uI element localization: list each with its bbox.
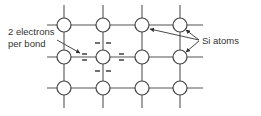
- silicon-lattice-diagram: 2 electrons per bond Si atoms: [0, 0, 261, 116]
- si-atom-center: [96, 50, 110, 64]
- si-atoms-arrow-3: [186, 41, 199, 52]
- si-atom: [173, 18, 187, 32]
- si-atom: [96, 18, 110, 32]
- si-atom: [57, 81, 71, 95]
- si-atom: [96, 81, 110, 95]
- si-atom: [57, 18, 71, 32]
- electrons-per-bond-label-line1: 2 electrons: [8, 26, 55, 37]
- si-atom: [135, 81, 149, 95]
- si-atoms-label: Si atoms: [202, 35, 239, 46]
- si-atom: [173, 50, 187, 64]
- si-atom: [57, 50, 71, 64]
- si-atom: [135, 50, 149, 64]
- electrons-per-bond-label-line2: per bond: [8, 38, 46, 49]
- si-atom: [135, 18, 149, 32]
- si-atom: [173, 81, 187, 95]
